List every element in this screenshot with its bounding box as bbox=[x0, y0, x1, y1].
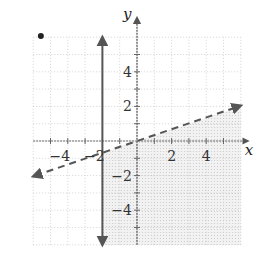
dot-marker bbox=[38, 33, 44, 39]
x-tick-label: −2 bbox=[84, 148, 105, 164]
inequality-graph: −4−22442−2−4 x y bbox=[0, 0, 258, 255]
x-tick-label: 4 bbox=[202, 148, 211, 164]
y-tick-label: 2 bbox=[123, 98, 132, 114]
x-axis-label: x bbox=[245, 141, 254, 159]
y-axis-label: y bbox=[122, 5, 132, 23]
x-tick-label: 2 bbox=[167, 148, 176, 164]
y-tick-label: 4 bbox=[123, 64, 132, 80]
y-tick-label: −4 bbox=[111, 202, 132, 218]
x-tick-label: −4 bbox=[49, 148, 70, 164]
y-tick-label: −2 bbox=[111, 168, 132, 184]
